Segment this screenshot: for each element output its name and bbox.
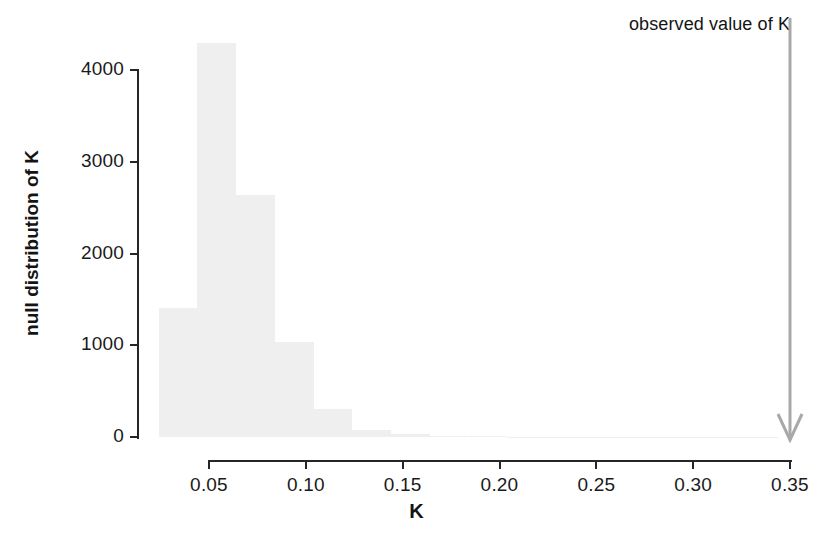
histogram-bar	[430, 436, 469, 437]
histogram-bar	[391, 434, 430, 437]
x-axis-tick	[499, 460, 501, 469]
y-axis-tick	[130, 253, 139, 255]
y-axis-tick	[130, 436, 139, 438]
y-axis-tick-label: 0	[40, 425, 124, 447]
x-axis-tick	[305, 460, 307, 469]
observed-value-arrow-icon	[770, 18, 810, 443]
y-axis-tick-label: 4000	[40, 58, 124, 80]
x-axis-tick-label: 0.35	[745, 474, 833, 496]
observed-value-label: observed value of K	[629, 14, 790, 35]
histogram-bar	[546, 437, 585, 438]
x-axis-title: K	[0, 500, 833, 523]
histogram-bar	[236, 195, 275, 437]
histogram-bar	[159, 308, 198, 437]
x-axis-tick	[402, 460, 404, 469]
x-axis-tick-label: 0.05	[164, 474, 254, 496]
histogram-bar	[197, 43, 236, 437]
x-axis-tick	[595, 460, 597, 469]
y-axis-tick	[130, 344, 139, 346]
y-axis-tick-label: 2000	[40, 242, 124, 264]
x-axis-tick-label: 0.30	[648, 474, 738, 496]
histogram-bar	[314, 409, 353, 437]
plot-area	[0, 0, 833, 547]
histogram-bar	[662, 437, 701, 438]
y-axis-tick	[130, 69, 139, 71]
x-axis-spine	[209, 460, 792, 462]
y-axis-tick	[130, 161, 139, 163]
histogram-bar	[507, 437, 546, 438]
histogram-bar	[585, 437, 624, 438]
x-axis-tick	[692, 460, 694, 469]
y-axis-title: null distribution of K	[21, 133, 43, 353]
histogram-bar	[275, 342, 314, 437]
x-axis-tick-label: 0.15	[358, 474, 448, 496]
histogram-bar	[352, 430, 391, 437]
histogram-bar	[469, 436, 508, 437]
histogram-bar	[623, 437, 662, 438]
y-axis-tick-label: 3000	[40, 150, 124, 172]
y-axis-tick-label: 1000	[40, 333, 124, 355]
histogram-bar	[701, 437, 740, 438]
x-axis-tick	[789, 460, 791, 469]
x-axis-tick	[208, 460, 210, 469]
figure-canvas: 01000200030004000 null distribution of K…	[0, 0, 833, 547]
x-axis-tick-label: 0.25	[551, 474, 641, 496]
x-axis-tick-label: 0.10	[261, 474, 351, 496]
x-axis-tick-label: 0.20	[455, 474, 545, 496]
